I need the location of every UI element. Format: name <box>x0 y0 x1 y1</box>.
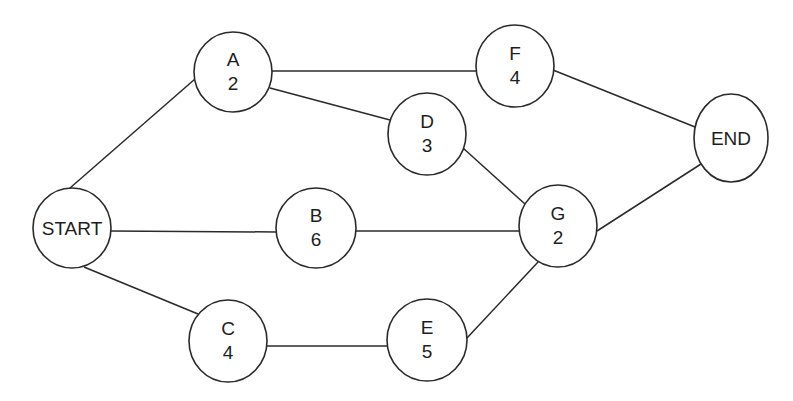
edge-start-to-a <box>70 79 195 188</box>
node-circle <box>194 32 272 112</box>
edge-start-to-b <box>111 231 276 232</box>
node-circle <box>388 93 466 175</box>
nodes-layer: STARTA2B6C4D3E5F4G2END <box>33 25 768 382</box>
node-label: C <box>221 318 235 339</box>
node-duration: 4 <box>510 67 521 88</box>
node-f: F4 <box>476 25 554 107</box>
node-label: G <box>551 203 566 224</box>
edge-g-to-end <box>597 164 701 231</box>
node-start: START <box>33 188 111 268</box>
node-duration: 2 <box>228 73 239 94</box>
node-g: G2 <box>519 185 597 267</box>
node-label: E <box>421 317 434 338</box>
node-duration: 2 <box>553 227 564 248</box>
node-a: A2 <box>194 32 272 112</box>
node-end: END <box>694 94 768 182</box>
node-label: D <box>420 111 434 132</box>
node-duration: 6 <box>311 229 322 250</box>
edge-d-to-g <box>463 148 525 204</box>
node-circle <box>519 185 597 267</box>
node-circle <box>276 188 356 268</box>
node-e: E5 <box>387 299 467 381</box>
node-b: B6 <box>276 188 356 268</box>
edge-a-to-d <box>270 88 390 120</box>
edge-start-to-c <box>84 267 198 314</box>
node-d: D3 <box>388 93 466 175</box>
network-diagram: STARTA2B6C4D3E5F4G2END <box>0 0 793 401</box>
node-label: END <box>711 128 751 149</box>
node-duration: 5 <box>422 341 433 362</box>
edge-e-to-g <box>467 261 539 338</box>
node-label: B <box>310 205 323 226</box>
node-circle <box>476 25 554 107</box>
node-label: A <box>227 49 240 70</box>
node-c: C4 <box>189 300 267 382</box>
node-circle <box>387 299 467 381</box>
node-label: START <box>42 218 103 239</box>
node-label: F <box>509 43 521 64</box>
edges-layer <box>70 70 701 346</box>
edge-f-to-end <box>553 70 695 127</box>
node-circle <box>189 300 267 382</box>
node-duration: 3 <box>422 135 433 156</box>
node-duration: 4 <box>223 342 234 363</box>
